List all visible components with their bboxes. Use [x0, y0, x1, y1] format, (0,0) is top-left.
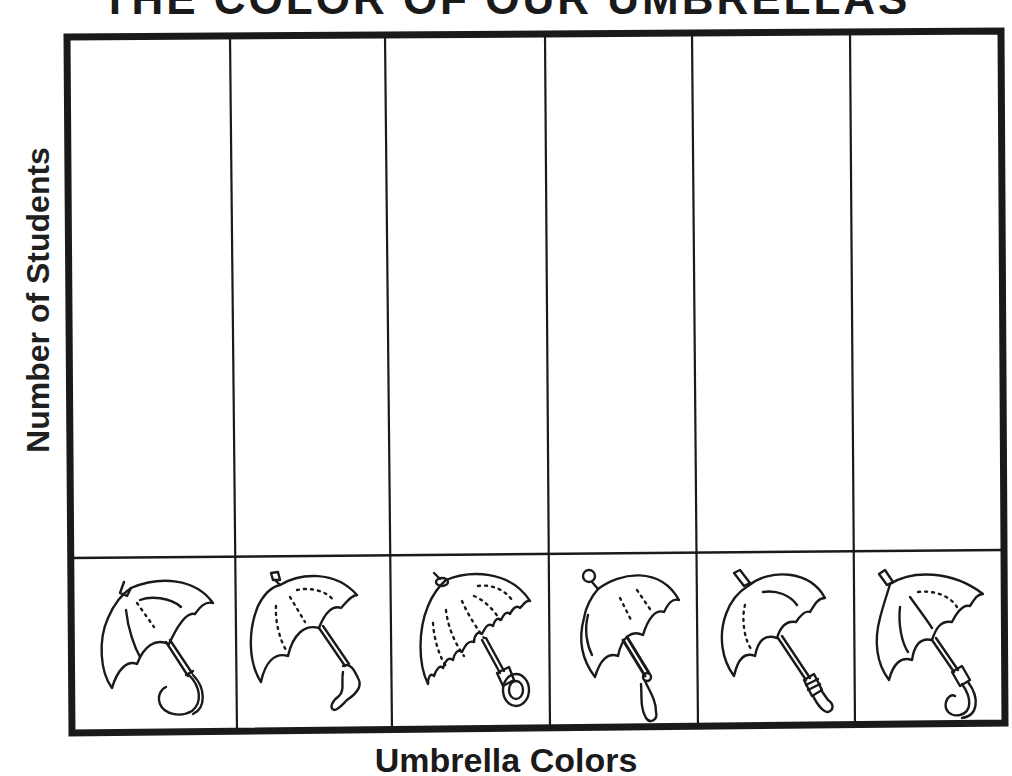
umbrella-scalloped-ring-handle-icon: [421, 573, 531, 706]
umbrella-knob-tip-straight-handle-icon: [581, 570, 679, 721]
umbrella-crook-handle-icon: [102, 581, 213, 715]
umbrella-crook-handle-2-icon: [877, 570, 983, 718]
bar-cell-4[interactable]: [548, 38, 690, 551]
bar-cell-2[interactable]: [233, 40, 383, 554]
bar-cell-1[interactable]: [72, 41, 228, 555]
bar-cell-3[interactable]: [388, 39, 543, 552]
bar-cell-5[interactable]: [695, 37, 848, 549]
bar-cell-6[interactable]: [853, 36, 998, 548]
umbrella-dotted-bent-handle-icon: [251, 572, 360, 710]
umbrella-ribbed-handle-icon: [722, 570, 833, 712]
